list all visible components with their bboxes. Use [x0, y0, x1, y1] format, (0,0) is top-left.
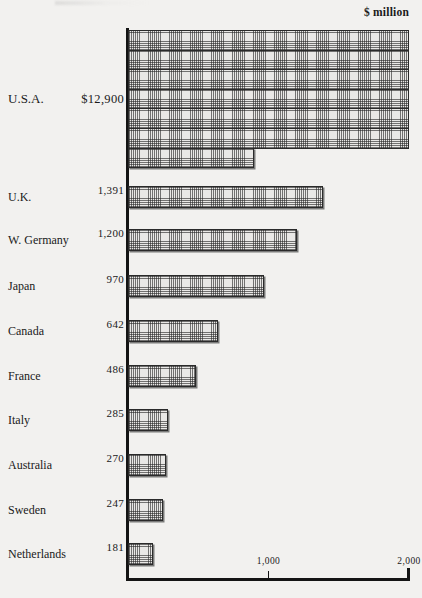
bar-u-s-a-row-6 — [128, 128, 409, 149]
category-label-u-s-a: U.S.A. — [8, 91, 44, 107]
category-label-australia: Australia — [8, 458, 52, 473]
bar-japan — [128, 275, 264, 297]
x-axis-line — [126, 578, 410, 581]
bar-italy — [128, 409, 168, 431]
value-label-australia: 270 — [107, 452, 124, 464]
category-label-sweden: Sweden — [8, 503, 46, 518]
bar-u-s-a-row-1 — [128, 30, 409, 51]
unit-caption: $ million — [364, 6, 409, 18]
bar-france — [128, 365, 196, 387]
value-label-u-s-a: $12,900 — [81, 91, 124, 106]
category-label-u-k: U.K. — [8, 190, 31, 205]
value-label-france: 486 — [107, 363, 124, 375]
category-label-w-germany: W. Germany — [8, 233, 69, 248]
x-axis-tick-1000 — [268, 571, 270, 578]
bar-u-s-a-row-2 — [128, 50, 409, 71]
value-label-japan: 970 — [107, 273, 124, 285]
bar-chart-figure: $ million 1,0002,000 U.S.A.$12,900U.K.1,… — [0, 0, 422, 598]
value-label-sweden: 247 — [107, 497, 124, 509]
bar-netherlands — [128, 543, 153, 565]
bar-australia — [128, 454, 166, 476]
value-label-netherlands: 181 — [107, 541, 124, 553]
category-label-france: France — [8, 369, 41, 384]
bar-u-s-a-row-7 — [128, 148, 254, 169]
bar-u-s-a-row-5 — [128, 108, 409, 129]
category-label-japan: Japan — [8, 279, 35, 294]
bar-u-k — [128, 186, 323, 208]
scan-artifact — [55, 1, 150, 5]
bar-w-germany — [128, 229, 297, 251]
x-axis-tick-label-2000: 2,000 — [397, 556, 420, 566]
x-axis-tick-label-1000: 1,000 — [257, 556, 280, 566]
value-label-canada: 642 — [107, 318, 124, 330]
bar-u-s-a-row-4 — [128, 89, 409, 110]
value-label-u-k: 1,391 — [98, 184, 124, 196]
category-label-canada: Canada — [8, 324, 44, 339]
bar-u-s-a-row-3 — [128, 69, 409, 90]
value-label-w-germany: 1,200 — [98, 227, 124, 239]
category-label-italy: Italy — [8, 413, 30, 428]
category-label-netherlands: Netherlands — [8, 547, 66, 562]
bar-canada — [128, 320, 218, 342]
value-label-italy: 285 — [107, 407, 124, 419]
x-axis-tick-2000 — [408, 571, 410, 578]
bar-sweden — [128, 499, 163, 521]
